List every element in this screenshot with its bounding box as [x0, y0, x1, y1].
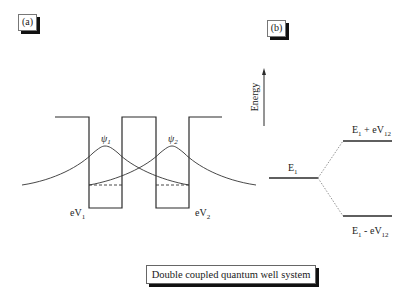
diagram-canvas: ψ1 ψ2 eV1 eV2 Energy E1 E1 + eV12 E1 - e… [0, 0, 408, 298]
e1-label: E1 [288, 162, 298, 176]
ev2-label: eV2 [195, 207, 211, 221]
wavefunctions [22, 146, 256, 185]
figure-caption: Double coupled quantum well system [146, 265, 316, 284]
energy-axis-label: Energy [249, 83, 260, 112]
energy-levels [269, 141, 392, 216]
well-potential-profile [55, 117, 222, 208]
ev1-label: eV1 [70, 207, 86, 221]
energy-axis: Energy [249, 68, 266, 126]
level-splitting-connectors [318, 141, 343, 216]
upper-level-label: E1 + eV12 [352, 124, 391, 138]
energy-arrow-head-icon [262, 68, 266, 75]
potential-line [55, 117, 222, 208]
caption-text: Double coupled quantum well system [152, 269, 311, 280]
psi2-label: ψ2 [168, 133, 178, 146]
connector-lower [318, 178, 343, 216]
psi1-curve [22, 146, 189, 185]
psi2-curve [89, 146, 256, 185]
connector-upper [318, 141, 343, 178]
psi1-label: ψ1 [101, 133, 111, 146]
lower-level-label: E1 - eV12 [352, 225, 389, 239]
